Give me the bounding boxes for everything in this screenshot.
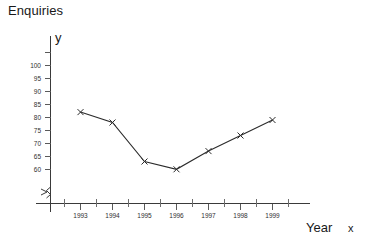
x-axis-symbol-label: x xyxy=(348,222,354,234)
y-axis-symbol-label: y xyxy=(55,30,62,45)
data-point-1997 xyxy=(206,148,212,154)
y-tick-label-65: 65 xyxy=(34,153,42,160)
y-tick-label-95: 95 xyxy=(34,75,42,82)
y-axis: y xyxy=(41,30,62,212)
data-point-1998 xyxy=(238,133,244,139)
x-axis-title-label: Year xyxy=(306,220,333,235)
x-tick-label-1999: 1999 xyxy=(265,212,280,219)
y-tick-group xyxy=(45,53,51,170)
y-tick-label-80: 80 xyxy=(34,114,42,121)
x-tick-label-1998: 1998 xyxy=(233,212,248,219)
y-tick-label-group: 100 95 90 85 80 75 70 65 60 xyxy=(30,62,41,173)
x-tick-label-1994: 1994 xyxy=(105,212,120,219)
y-tick-label-100: 100 xyxy=(30,62,41,69)
line-chart: y 100 95 90 85 80 75 70 65 60 xyxy=(0,0,376,248)
series-line-path xyxy=(81,112,273,169)
chart-page: Enquiries y 100 95 90 85 80 75 xyxy=(0,0,376,248)
y-tick-label-70: 70 xyxy=(34,140,42,147)
y-tick-label-75: 75 xyxy=(34,127,42,134)
y-tick-label-60: 60 xyxy=(34,166,42,173)
data-point-1999 xyxy=(270,117,276,123)
x-tick-label-1995: 1995 xyxy=(137,212,152,219)
x-axis: Year x xyxy=(36,204,354,236)
x-tick-label-1997: 1997 xyxy=(201,212,216,219)
x-tick-label-1993: 1993 xyxy=(73,212,88,219)
y-tick-label-85: 85 xyxy=(34,101,42,108)
y-axis-break-arrow-icon xyxy=(41,189,47,195)
data-point-1993 xyxy=(78,109,84,115)
data-series-enquiries xyxy=(78,109,276,172)
data-point-1994 xyxy=(110,120,116,126)
x-tick-label-group: 1993 1994 1995 1996 1997 1998 1999 xyxy=(73,212,280,219)
y-tick-label-90: 90 xyxy=(34,88,42,95)
x-tick-label-1996: 1996 xyxy=(169,212,184,219)
x-tick-group xyxy=(81,204,273,211)
